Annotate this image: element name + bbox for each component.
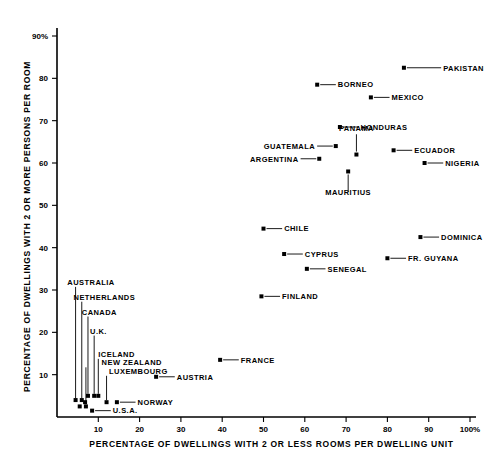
point-label: DOMINICA [441,233,483,242]
y-tick-label: 30 [39,286,48,295]
x-axis-title: PERCENTAGE OF DWELLINGS WITH 2 OR LESS R… [89,439,453,449]
data-point [78,404,82,408]
point-marker [334,144,338,148]
point-marker [259,294,263,298]
data-point: SENEGAL [305,265,367,274]
point-label: FINLAND [282,292,318,301]
point-label: PAKISTAN [443,64,484,73]
x-tick-label: 10 [94,425,103,434]
data-point: NIGERIA [423,159,480,168]
point-marker [402,66,406,70]
point-marker [354,153,358,157]
x-tick-label: 90 [424,425,433,434]
x-tick-label: 30 [176,425,185,434]
point-label: ECUADOR [414,146,455,155]
point-marker [282,252,286,256]
data-point: MAURITIUS [325,169,371,196]
x-tick-label: 40 [218,425,227,434]
point-label: NORWAY [138,398,174,407]
y-tick-label: 80 [39,74,48,83]
point-label: ARGENTINA [250,155,299,164]
plot-area: 102030405060708090%102030405060708090100… [0,0,496,464]
point-marker [154,375,158,379]
point-label: U.K. [90,327,107,336]
y-tick-label: 20 [39,328,48,337]
data-point: CYPRUS [282,250,339,259]
point-label: AUSTRALIA [67,278,115,287]
y-tick-label: 40 [39,244,48,253]
data-point: MEXICO [369,93,424,102]
point-marker [78,404,82,408]
data-point: PAKISTAN [402,64,484,73]
point-label: CYPRUS [305,250,339,259]
y-tick-label: 90% [32,32,48,41]
point-marker [218,358,222,362]
point-marker [317,157,321,161]
data-point: FINLAND [259,292,318,301]
point-marker [315,83,319,87]
y-tick-label: 10 [39,371,48,380]
point-marker [83,400,87,404]
y-tick-label: 70 [39,117,48,126]
y-axis-title: PERCENTAGE OF DWELLINGS WITH 2 OR MORE P… [22,61,32,392]
point-label: PANAMA [339,124,374,133]
point-marker [369,95,373,99]
point-label: LUXEMBOURG [109,367,168,376]
point-label: U.S.A. [113,406,138,415]
data-point: PANAMA [339,124,374,156]
point-marker [96,394,100,398]
point-label: GUATEMALA [264,142,316,151]
point-marker [385,256,389,260]
point-marker [115,400,119,404]
point-label: NIGERIA [445,159,480,168]
point-label: CHILE [284,224,309,233]
scatter-chart: 102030405060708090%102030405060708090100… [0,0,496,464]
point-marker [84,404,88,408]
point-marker [74,398,78,402]
point-label: AUSTRIA [177,373,214,382]
x-tick-label: 80 [383,425,392,434]
data-point: ECUADOR [392,146,456,155]
data-point: FRANCE [218,356,275,365]
point-marker [105,400,109,404]
point-label: CANADA [82,308,117,317]
point-marker [262,227,266,231]
data-point: U.S.A. [90,406,137,415]
data-point: BORNEO [315,80,373,89]
point-label: SENEGAL [328,265,367,274]
point-label: FR. GUYANA [408,254,459,263]
data-point: FR. GUYANA [385,254,458,263]
data-point: ARGENTINA [250,155,321,164]
point-label: FRANCE [241,356,275,365]
x-tick-label: 20 [135,425,144,434]
y-tick-label: 50 [39,201,48,210]
data-point [83,400,87,404]
point-label: NETHERLANDS [74,293,136,302]
y-tick-label: 60 [39,159,48,168]
point-marker [418,235,422,239]
data-point: DOMINICA [418,233,482,242]
x-tick-label: 70 [342,425,351,434]
x-tick-label: 60 [300,425,309,434]
point-marker [86,394,90,398]
x-tick-label: 100% [460,425,480,434]
point-marker [346,169,350,173]
point-label: BORNEO [338,80,374,89]
point-marker [305,267,309,271]
data-point: GUATEMALA [264,142,338,151]
point-marker [90,409,94,413]
point-marker [423,161,427,165]
x-tick-label: 50 [259,425,268,434]
point-marker [392,148,396,152]
point-label: MAURITIUS [325,188,371,197]
point-label: MEXICO [392,93,424,102]
point-marker [92,394,96,398]
data-point: CHILE [262,224,309,233]
